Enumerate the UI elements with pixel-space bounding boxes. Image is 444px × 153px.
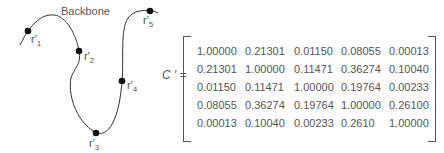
left-bracket bbox=[183, 36, 191, 142]
matrix-cell: 0.21301 bbox=[245, 43, 294, 59]
matrix-cell: 0.21301 bbox=[197, 61, 245, 77]
matrix-cell: 0.00233 bbox=[389, 79, 437, 95]
matrix-cell: 0.10040 bbox=[389, 61, 437, 77]
matrix-cell: 0.26100 bbox=[389, 97, 437, 113]
matrix-cell: 0.11471 bbox=[245, 79, 294, 95]
matrix-grid: 1.00000 0.21301 0.01150 0.08055 0.00013 … bbox=[197, 43, 437, 131]
matrix-cell: 1.00000 bbox=[197, 43, 245, 59]
backbone-label: Backbone bbox=[61, 5, 110, 17]
point-r2 bbox=[76, 48, 83, 55]
matrix-cell: 0.01150 bbox=[294, 43, 341, 59]
correlation-matrix: 1.00000 0.21301 0.01150 0.08055 0.00013 … bbox=[183, 30, 443, 140]
matrix-cell: 0.10040 bbox=[245, 115, 294, 131]
point-r3 bbox=[93, 130, 100, 137]
matrix-cell: 0.08055 bbox=[341, 43, 389, 59]
matrix-cell: 0.36274 bbox=[245, 97, 294, 113]
matrix-cell: 0.2610 bbox=[341, 115, 389, 131]
matrix-cell: 0.00233 bbox=[294, 115, 341, 131]
matrix-cell: 0.00013 bbox=[389, 43, 437, 59]
matrix-cell: 1.00000 bbox=[294, 79, 341, 95]
point-label-r3: r′3 bbox=[89, 138, 99, 152]
point-r4 bbox=[119, 78, 126, 85]
matrix-cell: 1.00000 bbox=[389, 115, 437, 131]
matrix-cell: 0.19764 bbox=[294, 97, 341, 113]
matrix-cell: 0.36274 bbox=[341, 61, 389, 77]
matrix-cell: 0.01150 bbox=[197, 79, 245, 95]
matrix-cell: 0.19764 bbox=[341, 79, 389, 95]
point-label-r2: r′2 bbox=[84, 51, 94, 65]
matrix-cell: 0.00013 bbox=[197, 115, 245, 131]
matrix-cell: 1.00000 bbox=[341, 97, 389, 113]
matrix-cell: 0.08055 bbox=[197, 97, 245, 113]
point-label-r1: r′1 bbox=[31, 34, 41, 48]
point-label-r4: r′4 bbox=[127, 80, 137, 94]
backbone-curve bbox=[20, 11, 158, 134]
matrix-cell: 1.00000 bbox=[245, 61, 294, 77]
point-label-r5: r′5 bbox=[143, 15, 153, 29]
matrix-cell: 0.11471 bbox=[294, 61, 341, 77]
